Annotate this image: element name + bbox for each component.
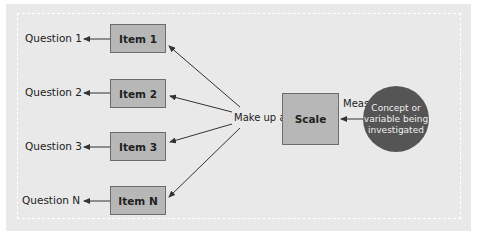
question-n-label: Question N xyxy=(22,194,80,206)
make-up-label: Make up a xyxy=(234,112,286,123)
question-1-label: Question 1 xyxy=(25,32,82,44)
item-1-box: Item 1 xyxy=(110,24,166,53)
question-2-label: Question 2 xyxy=(25,86,82,98)
question-3-label: Question 3 xyxy=(25,140,82,152)
item-3-box: Item 3 xyxy=(110,132,166,161)
item-n-box: Item N xyxy=(110,186,166,215)
scale-box: Scale xyxy=(282,93,339,145)
item-2-box: Item 2 xyxy=(110,79,166,108)
concept-circle: Concept or variable being investigated xyxy=(363,86,429,152)
